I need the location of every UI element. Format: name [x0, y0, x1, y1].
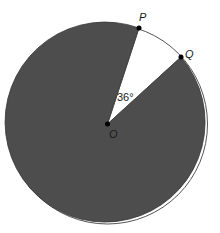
circle-diagram: P Q O 36°: [0, 0, 220, 233]
point-p: [137, 26, 142, 31]
point-o: [105, 122, 110, 127]
angle-label: 36°: [117, 91, 134, 103]
point-q: [179, 55, 184, 60]
label-o: O: [109, 128, 118, 140]
label-q: Q: [185, 48, 194, 60]
label-p: P: [139, 11, 147, 23]
